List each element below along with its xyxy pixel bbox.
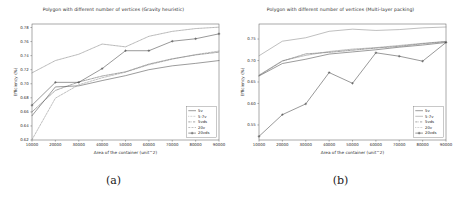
- legend-label-5v: 5v: [198, 108, 203, 113]
- y-tick-label: 0.72: [20, 67, 29, 72]
- legend-label-5v: 5v: [425, 108, 430, 113]
- x-tick-label: 60000: [370, 142, 383, 147]
- x-tick-label: 70000: [166, 142, 179, 147]
- x-tick-label: 40000: [96, 142, 109, 147]
- y-tick-label: 0.68: [20, 95, 29, 100]
- series-line-5-7v: [259, 27, 446, 56]
- series-marker-20vds: [218, 33, 221, 36]
- series-marker-20vds: [171, 40, 174, 43]
- y-axis-label: Efficiency (%): [240, 67, 245, 96]
- y-tick-label: 0.64: [20, 123, 29, 128]
- chart-panels: Polygon with different number of vertice…: [0, 0, 454, 168]
- series-line-20v: [259, 41, 446, 75]
- x-tick-label: 50000: [119, 142, 132, 147]
- legend-label-5vds: 5vds: [425, 119, 434, 124]
- x-tick-label: 70000: [393, 142, 406, 147]
- series-marker-20vds: [398, 55, 401, 58]
- y-tick-label: 0.70: [247, 58, 256, 63]
- legend-label-5vds: 5vds: [198, 119, 207, 124]
- series-line-5vds: [32, 52, 219, 112]
- y-tick-label: 0.62: [20, 137, 29, 142]
- legend-label-5-7v: 5-7v: [198, 114, 207, 119]
- y-tick-label: 0.60: [247, 101, 256, 106]
- x-tick-label: 10000: [26, 142, 39, 147]
- x-axis-label: Area of the container (unit^2): [94, 150, 158, 155]
- x-axis-label: Area of the container (unit^2): [321, 150, 385, 155]
- legend-label-20vds: 20vds: [425, 130, 436, 135]
- chart-panel-b: Polygon with different number of vertice…: [227, 0, 454, 168]
- series-marker-20vds: [77, 81, 80, 84]
- y-tick-label: 0.78: [20, 25, 29, 30]
- x-tick-label: 80000: [416, 142, 429, 147]
- x-tick-label: 20000: [276, 142, 289, 147]
- series-line-5vds: [259, 42, 446, 76]
- legend-label-20vds: 20vds: [198, 130, 209, 135]
- x-tick-label: 20000: [49, 142, 62, 147]
- legend-label-20v: 20v: [425, 125, 433, 130]
- x-tick-label: 50000: [346, 142, 359, 147]
- subfigure-caption-b: (b): [227, 168, 454, 200]
- x-tick-label: 90000: [440, 142, 453, 147]
- y-tick-label: 0.76: [20, 39, 29, 44]
- y-axis-label: Efficiency (%): [13, 67, 18, 96]
- plot-area-a: 1000020000300004000050000600007000080000…: [0, 0, 227, 168]
- x-tick-label: 80000: [189, 142, 202, 147]
- series-line-20vds: [32, 34, 219, 105]
- x-tick-label: 30000: [73, 142, 86, 147]
- series-line-5v: [259, 42, 446, 76]
- y-tick-label: 0.70: [20, 81, 29, 86]
- series-marker-20vds: [194, 37, 197, 40]
- y-tick-label: 0.75: [247, 36, 256, 41]
- plot-area-b: 1000020000300004000050000600007000080000…: [227, 0, 454, 168]
- subfigure-captions: (a) (b): [0, 168, 454, 200]
- x-tick-label: 40000: [323, 142, 336, 147]
- y-tick-label: 0.55: [247, 122, 256, 127]
- chart-panel-a: Polygon with different number of vertice…: [0, 0, 227, 168]
- y-tick-label: 0.74: [20, 53, 29, 58]
- x-tick-label: 30000: [300, 142, 313, 147]
- x-tick-label: 10000: [253, 142, 266, 147]
- legend-label-20v: 20v: [198, 125, 206, 130]
- x-tick-label: 90000: [213, 142, 226, 147]
- y-tick-label: 0.65: [247, 79, 256, 84]
- x-tick-label: 60000: [143, 142, 156, 147]
- subfigure-caption-a: (a): [0, 168, 227, 200]
- figure-container: Polygon with different number of vertice…: [0, 0, 454, 200]
- series-marker-20vds: [148, 49, 151, 52]
- legend-label-5-7v: 5-7v: [425, 114, 434, 119]
- y-tick-label: 0.66: [20, 109, 29, 114]
